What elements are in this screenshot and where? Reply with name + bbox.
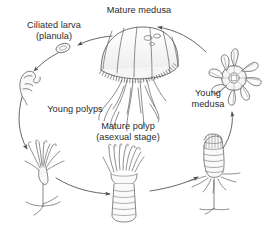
scyphistoma-polyp-icon (103, 144, 144, 222)
jellyfish-bell-icon (99, 27, 178, 131)
planula-oval-icon (55, 42, 71, 55)
arrow-settling-to-young (19, 97, 27, 149)
strobila-segmented-icon (189, 134, 240, 214)
young-polyp-cluster-icon (25, 140, 64, 215)
arrow-young-to-mature (56, 178, 110, 194)
settling-polyp-icon (20, 71, 40, 105)
label-mature-polyp: Mature polyp (asexual stage) (82, 121, 174, 142)
label-young-medusa: Young medusa (178, 88, 238, 109)
label-ciliated-larva: Ciliated larva (planula) (12, 20, 96, 41)
arrow-planula-to-settling (34, 53, 58, 71)
arrow-mature-to-strobila (150, 177, 198, 191)
life-cycle-diagram: Mature medusa Ciliated larva (planula) Y… (0, 0, 273, 226)
label-mature-medusa: Mature medusa (94, 5, 184, 16)
label-young-polyps: Young polyps (36, 104, 114, 115)
